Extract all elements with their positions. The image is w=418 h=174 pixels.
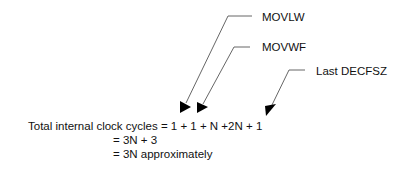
movwf-leader-arrow (197, 47, 250, 113)
clock-cycle-diagram: MOVLW MOVWF Last DECFSZ Total internal c… (0, 0, 418, 174)
equation-line-3: = 3N approximately (113, 148, 212, 161)
equation-line-2: = 3N + 3 (113, 134, 157, 147)
movlw-label: MOVLW (262, 11, 305, 24)
movwf-label: MOVWF (262, 41, 306, 54)
equation-line-1: Total internal clock cycles = 1 + 1 + N … (28, 120, 262, 133)
decfsz-label: Last DECFSZ (316, 65, 387, 78)
movlw-leader-arrow (180, 16, 252, 113)
decfsz-leader-arrow (265, 70, 305, 116)
